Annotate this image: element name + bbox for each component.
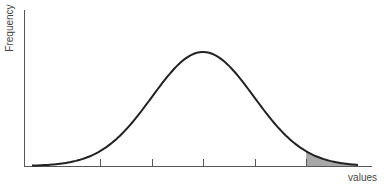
x-axis-label: values <box>348 172 377 183</box>
bell-curve <box>32 52 358 166</box>
x-axis-ticks <box>101 159 307 166</box>
y-axis-label: Frequency <box>4 0 16 56</box>
normal-distribution-chart <box>0 0 387 188</box>
